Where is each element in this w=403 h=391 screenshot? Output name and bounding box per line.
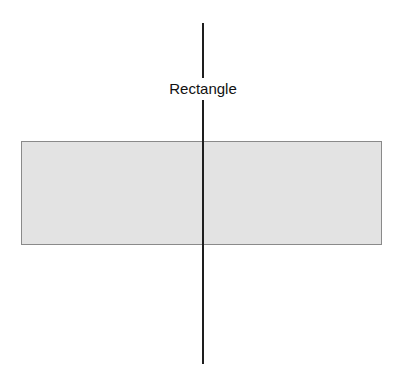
vertical-line bbox=[202, 23, 204, 364]
rectangle-label: Rectangle bbox=[166, 78, 240, 100]
diagram-canvas: Rectangle bbox=[0, 0, 403, 391]
